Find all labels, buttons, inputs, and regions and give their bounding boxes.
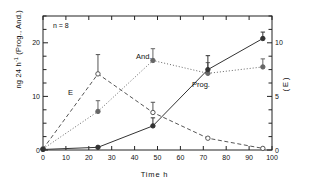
figure-container: 0102030405060708090100010200510 n = 8 E …	[0, 0, 309, 188]
data-point-prog	[96, 145, 100, 149]
x-tick-label: 80	[222, 154, 230, 161]
y-axis-left-label: ng 24 h-1 (Prog., And.)	[13, 0, 24, 119]
plot-frame	[43, 16, 272, 150]
y-axis-left-label-exponent: -1	[13, 57, 19, 62]
chart-canvas: 0102030405060708090100010200510	[0, 0, 309, 188]
y-axis-left-label-tail: (Prog., And.)	[14, 10, 23, 57]
x-tick-label: 70	[199, 154, 207, 161]
y-axis-right-label: ( E )	[281, 55, 290, 115]
x-tick-label: 0	[41, 154, 45, 161]
data-point-e	[151, 110, 155, 114]
data-point-and	[261, 65, 265, 69]
y-tick-label-right: 5	[275, 93, 279, 100]
y-axis-left-label-main: ng 24 h	[14, 62, 23, 88]
y-tick-label-left: 0	[36, 147, 40, 154]
data-point-and	[96, 109, 100, 113]
y-tick-label-left: 20	[32, 39, 40, 46]
x-tick-label: 100	[266, 154, 278, 161]
x-tick-label: 60	[177, 154, 185, 161]
x-tick-label: 40	[131, 154, 139, 161]
data-point-e	[206, 136, 210, 140]
series-label-e: E	[68, 88, 73, 97]
series-label-prog: Prog.	[192, 80, 210, 89]
sample-size-annotation: n = 8	[53, 22, 69, 29]
x-tick-label: 90	[245, 154, 253, 161]
data-point-prog	[206, 67, 210, 71]
y-tick-label-left: 10	[32, 93, 40, 100]
x-tick-label: 20	[85, 154, 93, 161]
x-tick-label: 10	[62, 154, 70, 161]
x-tick-label: 50	[154, 154, 162, 161]
data-point-prog	[261, 36, 265, 40]
y-tick-label-right: 0	[275, 147, 279, 154]
data-point-prog	[41, 147, 45, 151]
series-label-and: And.	[136, 52, 151, 61]
x-tick-label: 30	[108, 154, 116, 161]
data-point-prog	[151, 124, 155, 128]
data-point-e	[96, 72, 100, 76]
x-axis-label: Time h	[0, 170, 309, 179]
data-point-e	[261, 146, 265, 150]
y-tick-label-right: 10	[275, 39, 283, 46]
